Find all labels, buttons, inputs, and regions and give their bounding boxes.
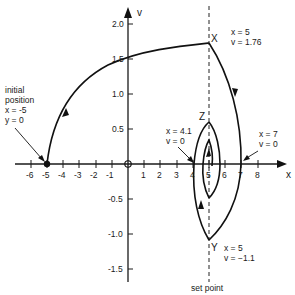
x-tick-label: -3 (74, 170, 82, 180)
set-point-label: set point (191, 283, 224, 293)
trajectory (47, 43, 241, 240)
annotation-text: v = −1.1 (224, 253, 255, 263)
v-axis-arrow-icon (124, 7, 132, 18)
annotation-right-cross: x = 7 v = 0 (243, 129, 278, 161)
annotation-text: v = 1.76 (231, 37, 262, 47)
x-tick-label: -2 (90, 170, 98, 180)
annotation-text: x = -5 (5, 105, 27, 115)
v-tick-label: 2.0 (112, 19, 124, 29)
x-tick-label: 6 (222, 170, 227, 180)
x-axis-label: x (286, 169, 291, 180)
x-tick-label: -1 (106, 170, 114, 180)
leader-arrow-icon (243, 155, 250, 161)
phase-plane-diagram: x v -6 -5 -4 -3 -2 -1 1 2 3 4 5 6 7 8 (0, 0, 295, 295)
trajectory-Z-down (209, 122, 220, 198)
annotation-text: x = 4.1 (166, 126, 192, 136)
trajectory-X-to-Y (209, 43, 241, 240)
v-tick-label: -1.5 (108, 264, 123, 274)
annotation-text: position (5, 95, 35, 105)
x-axis-arrow-icon (277, 160, 287, 168)
point-Z-label: Z (199, 111, 205, 122)
annotation-text: initial (5, 85, 24, 95)
annotation-X: X x = 5 v = 1.76 (211, 27, 262, 47)
x-tick-label: -4 (58, 170, 66, 180)
annotation-text: v = 0 (166, 136, 185, 146)
annotation-text: x = 5 (231, 27, 250, 37)
x-ticks: -6 -5 -4 -3 -2 -1 1 2 3 4 5 6 7 8 (26, 160, 260, 180)
point-X-label: X (211, 33, 218, 44)
annotation-text: x = 5 (224, 243, 243, 253)
annotation-text: y = 0 (5, 115, 24, 125)
point-Y-label: Y (211, 242, 218, 253)
x-tick-label: -5 (42, 170, 50, 180)
trajectory-Y-to-Z (194, 122, 209, 240)
x-tick-label: 1 (141, 170, 146, 180)
x-tick-label: 8 (255, 170, 260, 180)
annotation-text: v = 0 (259, 139, 278, 149)
v-tick-label: -1.0 (108, 229, 123, 239)
annotation-Z: Z (199, 111, 205, 122)
x-tick-label: -6 (26, 170, 34, 180)
x-tick-label: 2 (157, 170, 162, 180)
annotation-text: x = 7 (259, 129, 278, 139)
v-tick-label: 1.0 (112, 89, 124, 99)
arrow-up-icon (198, 200, 204, 209)
v-tick-label: -0.5 (108, 194, 123, 204)
x-tick-label: 3 (174, 170, 179, 180)
annotation-left-cross: x = 4.1 v = 0 (166, 126, 194, 163)
annotation-initial: initial position x = -5 y = 0 (5, 85, 45, 162)
axes: x v (15, 7, 291, 282)
v-axis-label: v (137, 7, 142, 18)
annotation-Y: Y x = 5 v = −1.1 (211, 242, 255, 263)
trajectory-inner-loop (203, 140, 213, 198)
v-tick-label: 0.5 (112, 124, 124, 134)
